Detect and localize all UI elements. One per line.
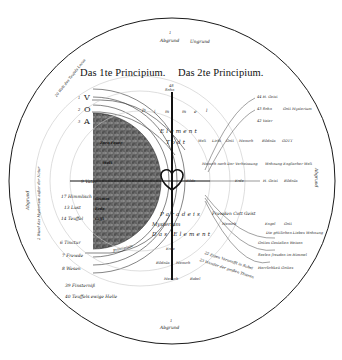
label-gifft: Gifft (95, 218, 104, 222)
label-das-element: Das Element (152, 232, 212, 238)
label-erde-right: Erde (235, 180, 244, 184)
label-todt: Todt (166, 140, 187, 146)
symbol-number: 3 (78, 121, 80, 125)
top-label-ungrund: Ungrund (190, 40, 210, 44)
arc-letter: m (165, 110, 169, 114)
top-number: 1 (169, 32, 171, 36)
label-licht: Licht (212, 140, 221, 144)
label-mensch: Mensch (239, 140, 253, 144)
left-edge-mysterium: 2 Wund das Mysterium außer der Natur (38, 167, 42, 240)
label-gottes-gestalten: Gottes Gestalten Weisen (258, 242, 303, 246)
label-bildnus-right: Bildnüs (284, 180, 298, 184)
symbol-number: 2 (78, 109, 80, 113)
label-vater-left: 9 Vater (81, 180, 97, 184)
label-teuffel: 14 Teuffel (61, 217, 83, 221)
label-sohn: 43 Sohn (257, 108, 272, 112)
symbol-v-icon: V (84, 94, 90, 102)
label-frewden-gott-geist: Frewden Cott Geist (212, 212, 256, 216)
label-mensch-lower: Mensch (222, 223, 236, 227)
label-mensch-bottom: Mensch (164, 278, 178, 282)
label-herrlichkeit-gottes: Herrlichkeit Gottes (258, 267, 293, 271)
label-frewde: 7 Frewde (62, 254, 83, 258)
label-mysterium: Mysterium (152, 222, 180, 227)
right-edge-abgrund: Abgrund (314, 168, 318, 187)
label-goettliche-liebes-wohnung: Die göttlichen Liebes Wohnung (266, 232, 323, 236)
label-vater: 42 Vater (257, 120, 272, 124)
label-h-geist-right: H. Geist (263, 180, 278, 184)
label-mensch-axis: Mensch (176, 262, 190, 266)
label-lust: 13 Lust (64, 206, 81, 210)
label-bildnus-lower: Bildnüs (156, 262, 170, 266)
label-element: Element (160, 129, 199, 135)
label-paradeis: Paradeis (160, 212, 202, 218)
label-mensch-verheissung: Mensch nach Der Verheissung (202, 163, 258, 167)
arc-letter: l (206, 109, 207, 113)
label-seelen-freuden: Seelen freuden im Himmel (258, 254, 307, 258)
label-erde-lower: Erde (166, 248, 175, 252)
bottom-label-abgrund: Abgrund (160, 326, 179, 330)
label-bildnus: Bildnüs (262, 140, 276, 144)
principium-diagram: 1 Abgrund Ungrund 20 Welt des Teufels Lo… (0, 0, 342, 360)
label-wesen: 8 Wesen (62, 267, 81, 271)
label-zorn-feuer: Zorn Feuer (100, 142, 122, 146)
arc-letter: D (142, 109, 146, 113)
label-tinctur: 6 Tinctur (60, 241, 81, 245)
axis-top-label: Sohn (165, 89, 174, 93)
label-bilde: Bilde (186, 180, 195, 184)
label-wohnung-englischer-welt: Wohnung Englischer Welt (265, 163, 312, 167)
arc-letter: i (154, 110, 155, 114)
label-engel: Engel (265, 223, 276, 227)
title-first-principium: Das 1te Principium. (80, 68, 166, 79)
label-himmlisch: 17 Himmlisch (61, 195, 92, 199)
arc-letter: m (182, 110, 186, 114)
label-erde-dark: Erde (95, 208, 104, 212)
label-welt: Welt (198, 140, 206, 144)
label-gott-mysterium: Gott Mysterium (283, 108, 312, 112)
symbol-number: 1 (78, 97, 80, 101)
label-h-geist: 44 H. Geist (257, 96, 278, 100)
label-teuffels-helle: 40 Teuffels ewige Helle (65, 295, 117, 299)
label-gott-caps: GOTT (282, 140, 293, 144)
bottom-number: 1 (170, 320, 172, 324)
label-babel: Babel (190, 278, 200, 282)
label-grimm: Grimm (95, 198, 109, 202)
top-label-abgrund: Abgrund (160, 39, 179, 43)
label-finsternis: 39 Finsterniß (65, 284, 95, 288)
label-gott: Gott (226, 140, 234, 144)
left-edge-abgrund: Abgrund (26, 191, 30, 210)
label-welt-dark: Welt (103, 162, 112, 166)
symbol-o-icon: O (84, 106, 91, 114)
symbol-a-icon: A (84, 118, 90, 126)
title-second-principium: Das 2te Principium. (178, 68, 264, 79)
label-gott-lower: Gott (284, 223, 292, 227)
arc-letter: e (194, 110, 197, 114)
